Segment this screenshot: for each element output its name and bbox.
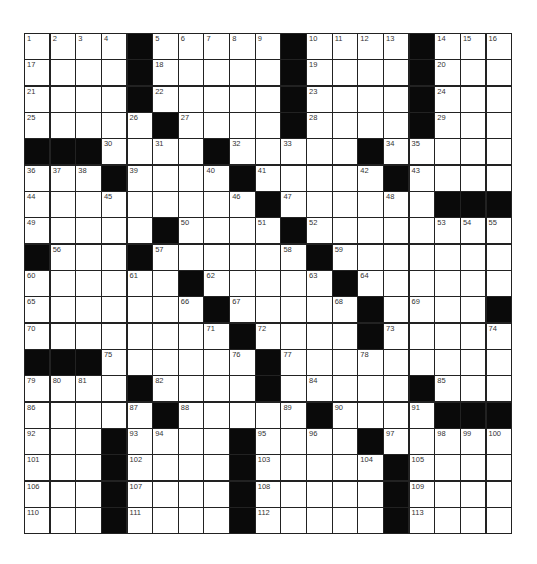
grid-cell[interactable] [153,166,177,191]
grid-cell[interactable]: 72 [256,324,280,349]
grid-cell[interactable]: 95 [256,429,280,454]
grid-cell[interactable] [333,508,357,533]
grid-cell[interactable] [358,376,382,401]
grid-cell[interactable] [281,271,305,296]
grid-cell[interactable]: 23 [307,87,331,112]
grid-cell[interactable] [204,429,228,454]
grid-cell[interactable]: 12 [358,34,382,59]
grid-cell[interactable]: 69 [410,297,434,322]
grid-cell[interactable]: 102 [128,455,152,480]
grid-cell[interactable]: 57 [153,245,177,270]
grid-cell[interactable] [487,376,511,401]
grid-cell[interactable] [179,482,203,507]
grid-cell[interactable]: 78 [358,350,382,375]
grid-cell[interactable] [153,455,177,480]
grid-cell[interactable]: 11 [333,34,357,59]
grid-cell[interactable]: 8 [230,34,254,59]
grid-cell[interactable] [410,350,434,375]
grid-cell[interactable]: 36 [25,166,49,191]
grid-cell[interactable]: 40 [204,166,228,191]
grid-cell[interactable] [410,245,434,270]
grid-cell[interactable] [435,297,459,322]
grid-cell[interactable] [307,324,331,349]
grid-cell[interactable] [358,218,382,243]
grid-cell[interactable]: 103 [256,455,280,480]
grid-cell[interactable] [281,324,305,349]
grid-cell[interactable] [435,482,459,507]
grid-cell[interactable] [435,324,459,349]
grid-cell[interactable] [435,508,459,533]
grid-cell[interactable]: 86 [25,403,49,428]
grid-cell[interactable] [487,245,511,270]
grid-cell[interactable] [179,166,203,191]
grid-cell[interactable] [333,455,357,480]
grid-cell[interactable]: 10 [307,34,331,59]
grid-cell[interactable] [204,455,228,480]
grid-cell[interactable] [76,455,100,480]
grid-cell[interactable] [410,218,434,243]
grid-cell[interactable] [487,482,511,507]
grid-cell[interactable] [358,482,382,507]
grid-cell[interactable]: 59 [333,245,357,270]
grid-cell[interactable] [384,376,408,401]
grid-cell[interactable] [461,350,485,375]
grid-cell[interactable] [179,192,203,217]
grid-cell[interactable] [487,113,511,138]
grid-cell[interactable] [153,192,177,217]
grid-cell[interactable]: 34 [384,139,408,164]
grid-cell[interactable] [179,87,203,112]
grid-cell[interactable] [102,297,126,322]
grid-cell[interactable] [153,508,177,533]
grid-cell[interactable] [51,324,75,349]
grid-cell[interactable] [384,403,408,428]
grid-cell[interactable]: 50 [179,218,203,243]
grid-cell[interactable]: 5 [153,34,177,59]
grid-cell[interactable]: 60 [25,271,49,296]
grid-cell[interactable] [204,350,228,375]
grid-cell[interactable] [487,60,511,85]
grid-cell[interactable]: 99 [461,429,485,454]
grid-cell[interactable] [179,324,203,349]
grid-cell[interactable] [256,297,280,322]
grid-cell[interactable]: 13 [384,34,408,59]
grid-cell[interactable] [487,508,511,533]
grid-cell[interactable] [281,482,305,507]
grid-cell[interactable] [461,482,485,507]
grid-cell[interactable]: 80 [51,376,75,401]
grid-cell[interactable]: 73 [384,324,408,349]
grid-cell[interactable]: 45 [102,192,126,217]
grid-cell[interactable] [435,139,459,164]
grid-cell[interactable] [461,113,485,138]
grid-cell[interactable]: 6 [179,34,203,59]
grid-cell[interactable]: 109 [410,482,434,507]
grid-cell[interactable] [307,192,331,217]
grid-cell[interactable] [461,324,485,349]
grid-cell[interactable]: 51 [256,218,280,243]
grid-cell[interactable] [333,139,357,164]
grid-cell[interactable]: 87 [128,403,152,428]
grid-cell[interactable]: 1 [25,34,49,59]
grid-cell[interactable] [281,297,305,322]
grid-cell[interactable]: 100 [487,429,511,454]
grid-cell[interactable]: 101 [25,455,49,480]
grid-cell[interactable] [333,113,357,138]
grid-cell[interactable]: 105 [410,455,434,480]
grid-cell[interactable] [307,455,331,480]
grid-cell[interactable] [358,192,382,217]
grid-cell[interactable] [51,297,75,322]
grid-cell[interactable]: 94 [153,429,177,454]
grid-cell[interactable]: 4 [102,34,126,59]
grid-cell[interactable] [153,482,177,507]
grid-cell[interactable] [76,192,100,217]
grid-cell[interactable]: 39 [128,166,152,191]
grid-cell[interactable] [358,403,382,428]
grid-cell[interactable]: 25 [25,113,49,138]
grid-cell[interactable] [51,403,75,428]
grid-cell[interactable] [153,271,177,296]
grid-cell[interactable] [51,192,75,217]
grid-cell[interactable] [410,271,434,296]
grid-cell[interactable] [128,192,152,217]
grid-cell[interactable] [358,60,382,85]
grid-cell[interactable] [358,113,382,138]
grid-cell[interactable] [102,113,126,138]
